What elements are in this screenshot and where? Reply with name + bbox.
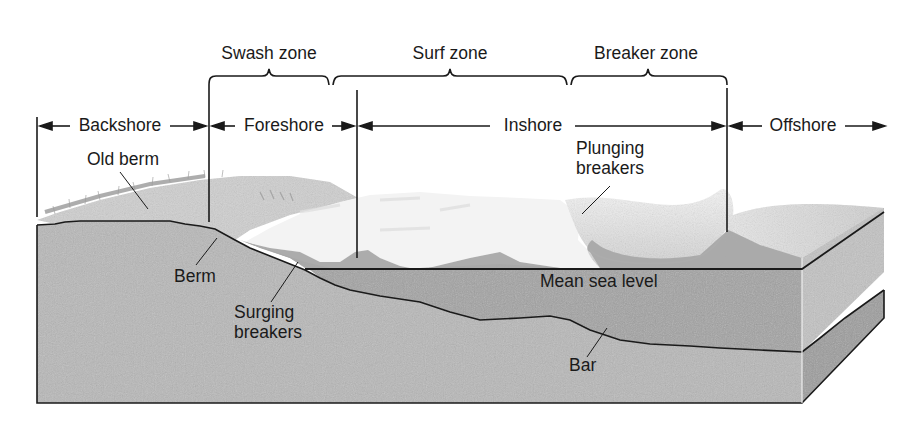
- offshore-label: Offshore: [770, 116, 837, 136]
- plunging-breakers-label: Plunging breakers: [576, 139, 644, 178]
- foreshore-label: Foreshore: [244, 116, 324, 136]
- swash-zone-brace: [209, 69, 329, 85]
- beach-profile-diagram: [0, 0, 921, 434]
- surging-breakers-line1: Surging: [234, 303, 302, 323]
- mean-sea-level-label: Mean sea level: [540, 272, 658, 292]
- bar-label: Bar: [569, 356, 596, 376]
- surf-zone-label: Surf zone: [413, 44, 488, 64]
- plunging-breakers-line2: breakers: [576, 159, 644, 179]
- surf-zone-brace: [333, 69, 567, 85]
- zone-braces: [209, 69, 727, 85]
- swash-zone-label: Swash zone: [221, 44, 316, 64]
- region-arrows: [40, 122, 885, 130]
- plunging-breakers-line1: Plunging: [576, 139, 644, 159]
- surging-breakers-label: Surging breakers: [234, 303, 302, 342]
- surging-breakers-line2: breakers: [234, 323, 302, 343]
- inshore-label: Inshore: [504, 116, 562, 136]
- berm-label: Berm: [174, 267, 216, 287]
- backshore-label: Backshore: [79, 116, 162, 136]
- breaker-zone-label: Breaker zone: [594, 44, 698, 64]
- old-berm-label: Old berm: [87, 150, 159, 170]
- breaker-zone-brace: [571, 69, 727, 85]
